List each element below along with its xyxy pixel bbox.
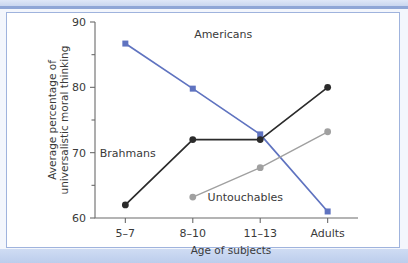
x-tick-label: Adults bbox=[310, 227, 345, 240]
x-axis-tick-labels: 5–78–1011–13Adults bbox=[116, 227, 346, 240]
y-tick-label: 60 bbox=[72, 212, 86, 225]
series-markers bbox=[122, 41, 331, 215]
data-point-brahmans bbox=[324, 84, 331, 91]
y-tick-label: 80 bbox=[72, 81, 86, 94]
series-line-brahmans bbox=[125, 87, 327, 205]
y-axis-tick-labels: 60708090 bbox=[72, 16, 86, 225]
series-label-untouchables: Untouchables bbox=[208, 191, 284, 204]
y-tick-label: 70 bbox=[72, 147, 86, 160]
data-point-americans bbox=[325, 208, 331, 214]
series-label-americans: Americans bbox=[194, 28, 252, 41]
data-point-americans bbox=[190, 86, 196, 92]
x-axis-title: Age of subjects bbox=[191, 244, 272, 256]
y-axis-title-line1: Average percentage of bbox=[46, 60, 58, 180]
y-tick-label: 90 bbox=[72, 16, 86, 29]
x-tick-label: 11–13 bbox=[243, 227, 277, 240]
y-axis-title-line2: universalistic moral thinking bbox=[58, 46, 70, 195]
chart-axes bbox=[95, 22, 358, 218]
x-tick-label: 5–7 bbox=[116, 227, 136, 240]
series-annotations: AmericansBrahmansUntouchables bbox=[100, 28, 284, 204]
data-point-brahmans bbox=[122, 202, 129, 209]
data-point-untouchables bbox=[257, 164, 264, 171]
data-point-americans bbox=[122, 41, 128, 47]
figure-container: 60708090 5–78–1011–13Adults AmericansBra… bbox=[0, 0, 408, 263]
line-chart: 60708090 5–78–1011–13Adults AmericansBra… bbox=[0, 0, 408, 263]
series-line-americans bbox=[125, 44, 327, 212]
data-point-untouchables bbox=[324, 128, 331, 135]
series-label-brahmans: Brahmans bbox=[100, 147, 156, 160]
data-point-brahmans bbox=[189, 136, 196, 143]
x-tick-label: 8–10 bbox=[180, 227, 207, 240]
series-lines bbox=[125, 44, 327, 212]
data-point-brahmans bbox=[257, 136, 264, 143]
data-point-untouchables bbox=[189, 194, 196, 201]
